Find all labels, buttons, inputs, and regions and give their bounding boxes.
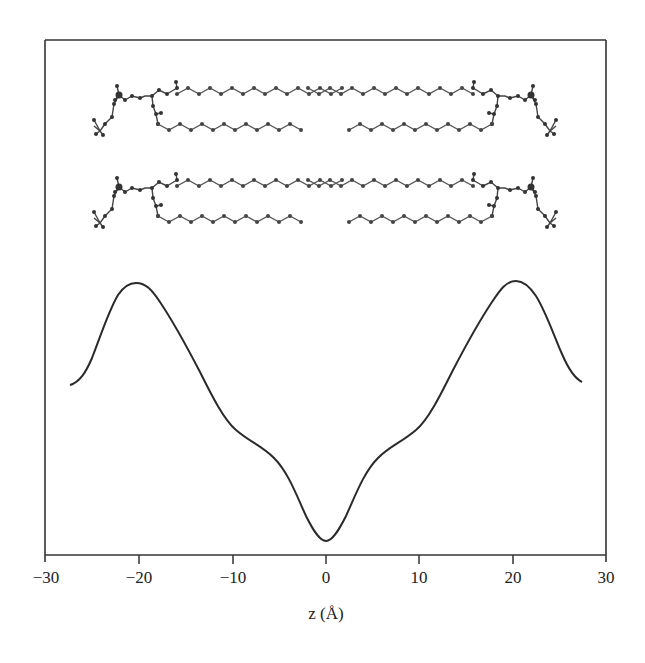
lipid-pair-2 — [92, 172, 558, 229]
plot-svg — [0, 0, 645, 663]
plot-frame — [45, 40, 606, 562]
x-tick-label: 20 — [505, 568, 522, 588]
x-axis-title: z (Å) — [308, 604, 343, 624]
x-axis-ticks — [139, 555, 513, 564]
profile-curve — [70, 281, 582, 541]
x-tick-label: 10 — [411, 568, 428, 588]
lipid-pair-1 — [92, 80, 558, 137]
x-tick-label: −10 — [220, 568, 247, 588]
x-tick-label: −20 — [126, 568, 153, 588]
x-tick-label: −30 — [33, 568, 60, 588]
x-tick-label: 0 — [322, 568, 331, 588]
figure: −30 −20 −10 0 10 20 30 z (Å) — [0, 0, 645, 663]
x-tick-label: 30 — [598, 568, 615, 588]
